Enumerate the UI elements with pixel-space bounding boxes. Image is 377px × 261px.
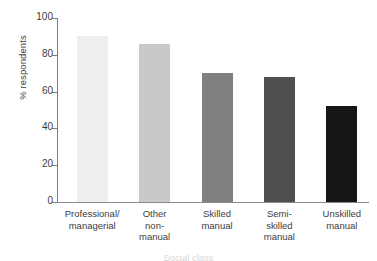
bar: [77, 36, 108, 202]
y-tick-label: 40: [42, 121, 53, 132]
bar: [326, 106, 357, 202]
bar-chart: % respondents 020406080100 Professional/…: [0, 0, 377, 261]
y-tick-label: 60: [42, 85, 53, 96]
y-axis-title: % respondents: [17, 0, 28, 138]
y-tick-label: 80: [42, 48, 53, 59]
y-tick-label: 20: [42, 158, 53, 169]
x-axis-line: [57, 202, 369, 203]
bar: [202, 73, 233, 202]
x-tick-label: Unskilled manual: [302, 208, 377, 231]
y-tick-label: 100: [36, 11, 53, 22]
plot-area: 020406080100: [57, 18, 369, 203]
bar: [264, 77, 295, 202]
x-axis-title: Social class: [0, 252, 377, 261]
bar: [139, 44, 170, 202]
y-tick-label: 0: [47, 195, 53, 206]
y-axis-line: [57, 18, 58, 202]
